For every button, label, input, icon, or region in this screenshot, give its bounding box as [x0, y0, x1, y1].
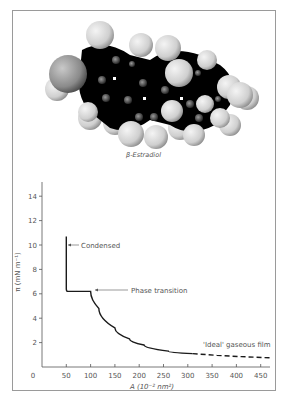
svg-text:250: 250	[157, 372, 170, 380]
svg-text:Condensed: Condensed	[81, 242, 120, 250]
svg-text:12: 12	[28, 217, 37, 225]
svg-text:4: 4	[33, 315, 38, 323]
svg-text:10: 10	[28, 242, 37, 250]
svg-text:100: 100	[84, 372, 97, 380]
x-ticks: 050100150200250300350400450	[31, 364, 268, 380]
svg-text:450: 450	[254, 372, 267, 380]
svg-text:2: 2	[33, 339, 37, 347]
x-axis-label: A (10⁻² nm²)	[129, 383, 174, 391]
annotation-ideal-gas: 'Ideal' gaseous film	[203, 341, 271, 349]
svg-text:300: 300	[181, 372, 194, 380]
annotation-phase-transition: Phase transition	[95, 287, 187, 295]
isotherm-chart: 2468101214 050100150200250300350400450 π…	[0, 0, 287, 402]
svg-text:Phase transition: Phase transition	[131, 287, 187, 295]
svg-text:0: 0	[31, 372, 35, 380]
svg-text:'Ideal' gaseous film: 'Ideal' gaseous film	[203, 341, 271, 349]
svg-text:350: 350	[205, 372, 218, 380]
y-ticks: 2468101214	[28, 193, 42, 347]
svg-text:14: 14	[28, 193, 37, 201]
ideal-gas-curve	[193, 354, 271, 358]
svg-text:200: 200	[133, 372, 146, 380]
annotation-condensed: Condensed	[68, 242, 120, 250]
isotherm-curve	[66, 236, 192, 353]
svg-text:50: 50	[62, 372, 71, 380]
svg-text:6: 6	[33, 290, 38, 298]
svg-text:150: 150	[108, 372, 121, 380]
svg-text:400: 400	[230, 372, 243, 380]
svg-text:8: 8	[33, 266, 37, 274]
y-axis-label: π (mN m⁻¹)	[14, 252, 22, 292]
